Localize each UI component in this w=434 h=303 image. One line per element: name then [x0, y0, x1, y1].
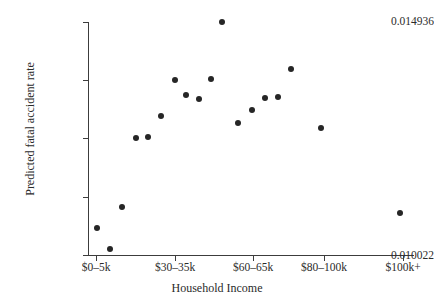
data-point	[288, 66, 294, 72]
data-point	[196, 96, 202, 102]
data-point	[145, 134, 151, 140]
data-point	[119, 204, 125, 210]
data-point	[107, 246, 113, 252]
scatter-plot-figure: 0.014936 0.010022 Predicted fatal accide…	[0, 0, 434, 303]
y-axis-tick	[83, 80, 88, 81]
data-point	[235, 120, 241, 126]
data-point	[94, 225, 100, 231]
data-point	[133, 135, 139, 141]
y-axis-tick-label-min: 0.010022	[356, 250, 434, 262]
data-point	[262, 95, 268, 101]
data-point	[208, 76, 214, 82]
y-axis-tick	[83, 138, 88, 139]
x-axis-tick-label: $0–5k	[82, 262, 111, 274]
y-axis-tick	[83, 197, 88, 198]
x-axis-tick-label: $80–100k	[301, 262, 347, 274]
y-axis-line	[88, 22, 89, 256]
y-axis-title: Predicted fatal accident rate	[24, 14, 36, 244]
data-point	[275, 94, 281, 100]
x-axis-title: Household Income	[0, 282, 434, 294]
data-point	[183, 92, 189, 98]
data-point	[249, 107, 255, 113]
x-axis-tick-label: $60–65k	[233, 262, 273, 274]
y-axis-tick-label-max: 0.014936	[356, 16, 434, 28]
data-point	[318, 125, 324, 131]
x-axis-tick-label: $100k+	[385, 262, 420, 274]
data-point	[219, 19, 225, 25]
x-axis-tick-label: $30–35k	[155, 262, 195, 274]
y-axis-tick	[83, 22, 88, 23]
data-point	[172, 77, 178, 83]
data-point	[397, 210, 403, 216]
data-point	[158, 113, 164, 119]
y-axis-tick	[83, 255, 88, 256]
